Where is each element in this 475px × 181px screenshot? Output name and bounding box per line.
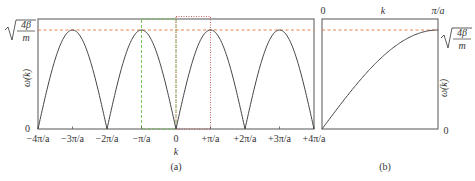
panel-b-caption: (b) [379, 161, 391, 173]
svg-text:m: m [22, 32, 29, 43]
x-tick-label: −2π/a [96, 133, 119, 144]
x-tick-label: +2π/a [234, 133, 257, 144]
y-axis-label-a: ω(k) [21, 68, 33, 87]
dispersion-curve-b [322, 30, 438, 129]
y-max-label-a: 4β m [5, 19, 36, 43]
y-max-label-b: 4β m [441, 27, 472, 51]
panel-b-frame [322, 19, 438, 129]
panel-a-caption: (a) [170, 161, 181, 173]
svg-text:m: m [458, 40, 465, 51]
y-zero-label-b: 0 [444, 125, 449, 136]
x-tick-label: −π/a [133, 133, 151, 144]
b-top-left-label: 0 [321, 5, 326, 16]
panel-a: 0 4β m ω(k) −4π/a−3π/a−2π/a−π/a0+π/a+2π/… [5, 17, 326, 174]
y-axis-label-b: ω(k) [438, 78, 450, 97]
x-axis-label-a: k [174, 146, 179, 157]
dispersion-figure: 0 4β m ω(k) −4π/a−3π/a−2π/a−π/a0+π/a+2π/… [0, 0, 475, 181]
zone-green-rect [142, 19, 177, 129]
x-tick-label: −3π/a [61, 133, 84, 144]
x-tick-label: +3π/a [268, 133, 291, 144]
panel-b: 0 k π/a 4β m ω(k) 0 (b) [321, 5, 473, 173]
x-tick-label: 0 [174, 133, 179, 144]
x-tick-label: +4π/a [303, 133, 326, 144]
x-tick-label: −4π/a [27, 133, 50, 144]
b-top-right-label: π/a [432, 5, 445, 16]
x-tick-label: +π/a [202, 133, 220, 144]
x-axis-label-b: k [381, 5, 386, 16]
x-tick-labels-a: −4π/a−3π/a−2π/a−π/a0+π/a+2π/a+3π/a+4π/a [27, 133, 326, 144]
svg-text:4β: 4β [21, 19, 31, 30]
svg-text:4β: 4β [457, 27, 467, 38]
